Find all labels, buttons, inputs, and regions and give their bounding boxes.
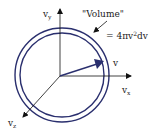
- vz-axis: [23, 76, 60, 117]
- velocity-vector: [60, 64, 97, 76]
- vector-label: v: [112, 58, 119, 68]
- vz-label: vz: [7, 118, 16, 129]
- velocity-shell-diagram: vy vx vz v "Volume" = 4πv2dv: [0, 0, 153, 132]
- volume-label: "Volume": [82, 9, 124, 19]
- vx-label: vx: [121, 85, 131, 96]
- vy-label: vy: [42, 9, 52, 21]
- volume-formula: = 4πv2dv: [106, 30, 149, 41]
